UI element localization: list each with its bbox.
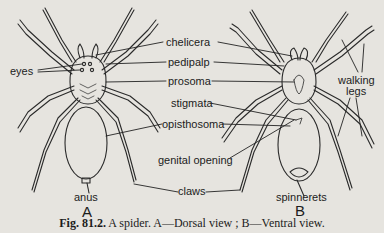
label-anus: anus <box>74 192 98 203</box>
figure-caption: Fig. 81.2. A spider. A—Dorsal view ; B—V… <box>0 217 384 229</box>
label-chelicera: chelicera <box>166 37 210 48</box>
label-claws: claws <box>178 186 206 197</box>
caption-text: A spider. A—Dorsal view ; B—Ventral view… <box>106 216 325 230</box>
label-opisthosoma: opisthosoma <box>162 119 224 130</box>
label-eyes: eyes <box>10 66 33 77</box>
label-prosoma: prosoma <box>168 76 211 87</box>
label-walking-legs-line2: legs <box>346 86 366 97</box>
dorsal-spider-drawing <box>18 8 160 193</box>
label-pedipalp: pedipalp <box>168 57 210 68</box>
label-stigmata: stigmata <box>171 98 213 109</box>
ventral-spider-drawing <box>222 10 374 196</box>
caption-number: Fig. 81.2. <box>59 216 106 230</box>
label-genital-opening: genital opening <box>158 155 233 166</box>
spider-figure: eyes chelicera pedipalp prosoma stigmata… <box>0 0 384 233</box>
